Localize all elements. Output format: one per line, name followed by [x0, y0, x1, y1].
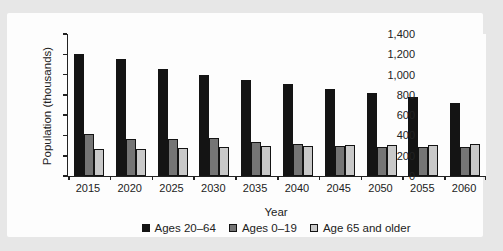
x-axis-title: Year	[67, 206, 485, 218]
bar-2045-series2	[345, 145, 355, 176]
x-tick-label: 2035	[243, 182, 267, 194]
bar-2030-series2	[219, 147, 229, 176]
bar-2060-series2	[470, 144, 480, 177]
y-axis-tick	[63, 94, 67, 96]
y-axis-tick	[63, 33, 67, 35]
bar-2020-series1	[126, 139, 136, 177]
bar-2055-series1	[418, 147, 428, 176]
y-tick-label: 600	[397, 109, 415, 121]
x-axis-tick	[319, 176, 321, 180]
bar-2035-series2	[261, 146, 271, 176]
y-tick-label: 800	[397, 89, 415, 101]
bar-2060-series0	[450, 103, 460, 176]
bar-2055-series2	[428, 145, 438, 176]
y-tick-label: 0	[409, 170, 415, 182]
y-tick-label: 400	[397, 129, 415, 141]
x-tick-label: 2015	[76, 182, 100, 194]
bar-2040-series1	[293, 144, 303, 177]
legend-swatch-icon	[310, 224, 318, 232]
x-tick-label: 2050	[368, 182, 392, 194]
legend-label: Ages 0–19	[242, 222, 297, 234]
x-tick-label: 2025	[159, 182, 183, 194]
y-tick-label: 1,400	[387, 28, 415, 40]
bar-2020-series2	[136, 149, 146, 176]
y-axis-tick	[63, 54, 67, 56]
legend-label: Ages 20–64	[155, 222, 216, 234]
x-axis-tick	[402, 176, 404, 180]
x-tick-label: 2030	[201, 182, 225, 194]
chart-legend: Ages 20–64Ages 0–19Age 65 and older	[67, 222, 485, 234]
bar-2015-series1	[84, 134, 94, 176]
x-axis-tick	[277, 176, 279, 180]
x-tick-label: 2055	[410, 182, 434, 194]
bar-2015-series0	[74, 54, 84, 176]
bar-2030-series1	[209, 138, 219, 176]
y-axis-tick	[63, 114, 67, 116]
x-tick-label: 2045	[326, 182, 350, 194]
x-tick-label: 2040	[285, 182, 309, 194]
x-tick-label: 2020	[117, 182, 141, 194]
legend-item-2: Age 65 and older	[310, 222, 411, 234]
bar-2040-series2	[303, 146, 313, 176]
y-tick-label: 1,200	[387, 48, 415, 60]
plot-area	[67, 34, 486, 177]
legend-swatch-icon	[229, 224, 237, 232]
bar-2035-series1	[251, 142, 261, 176]
x-axis-tick	[193, 176, 195, 180]
bar-2050-series2	[387, 145, 397, 176]
y-axis-title: Population (thousands)	[41, 35, 55, 177]
bar-2020-series0	[116, 59, 126, 176]
bar-2015-series2	[94, 149, 104, 176]
y-axis-tick	[63, 74, 67, 76]
y-tick-label: 200	[397, 150, 415, 162]
x-axis-tick	[444, 176, 446, 180]
x-axis-tick	[68, 176, 70, 180]
legend-swatch-icon	[142, 224, 150, 232]
y-axis-tick	[63, 175, 67, 177]
chart-panel: Population (thousands) Year Ages 20–64Ag…	[7, 13, 483, 237]
y-axis-tick	[63, 135, 67, 137]
legend-label: Age 65 and older	[323, 222, 411, 234]
x-axis-tick	[485, 176, 487, 180]
x-axis-tick	[152, 176, 154, 180]
bar-2025-series0	[158, 69, 168, 177]
legend-item-1: Ages 0–19	[229, 222, 297, 234]
x-axis-tick	[110, 176, 112, 180]
x-tick-label: 2060	[452, 182, 476, 194]
bar-2040-series0	[283, 84, 293, 176]
bar-2060-series1	[460, 147, 470, 176]
bar-2045-series0	[325, 89, 335, 176]
bar-2025-series1	[168, 139, 178, 177]
y-axis-tick	[63, 155, 67, 157]
x-axis-tick	[361, 176, 363, 180]
bar-2025-series2	[178, 148, 188, 176]
bar-2035-series0	[241, 80, 251, 176]
bar-2045-series1	[335, 146, 345, 176]
bar-2030-series0	[199, 75, 209, 176]
legend-item-0: Ages 20–64	[142, 222, 216, 234]
bar-2050-series0	[367, 93, 377, 176]
y-tick-label: 1,000	[387, 69, 415, 81]
x-axis-tick	[235, 176, 237, 180]
bar-2050-series1	[377, 147, 387, 176]
